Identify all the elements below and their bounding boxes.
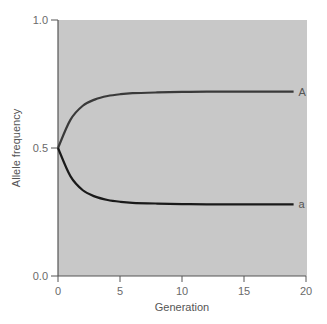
plot-area xyxy=(58,20,307,276)
y-axis-label: Allele frequency xyxy=(10,108,22,187)
x-tick-label: 20 xyxy=(300,285,312,297)
x-axis-label: Generation xyxy=(155,301,209,313)
x-tick-label: 15 xyxy=(238,285,250,297)
series-label-A: A xyxy=(299,86,307,98)
y-tick-label: 0.5 xyxy=(33,142,48,154)
x-tick-label: 5 xyxy=(117,285,123,297)
x-tick-label: 0 xyxy=(55,285,61,297)
allele-frequency-chart: 051015200.00.51.0 Aa Generation Allele f… xyxy=(0,0,327,324)
series-label-a: a xyxy=(299,198,306,210)
x-tick-label: 10 xyxy=(176,285,188,297)
y-tick-label: 1.0 xyxy=(33,14,48,26)
y-tick-label: 0.0 xyxy=(33,270,48,282)
